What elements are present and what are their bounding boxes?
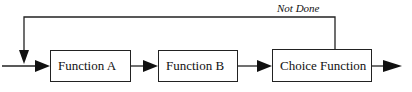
not-done-label: Not Done — [277, 2, 319, 14]
arrow-feedback-down — [19, 50, 29, 64]
choice-function-label: Choice Function — [280, 58, 366, 74]
arrow-into-function-b — [143, 60, 158, 72]
function-b-box: Function B — [158, 50, 238, 82]
function-a-label: Function A — [58, 58, 116, 74]
function-a-box: Function A — [50, 50, 131, 82]
function-b-label: Function B — [166, 58, 224, 74]
arrow-into-choice-function — [257, 60, 272, 72]
arrow-output — [383, 60, 402, 72]
choice-function-box: Choice Function — [272, 49, 372, 82]
arrow-into-function-a — [35, 60, 50, 72]
